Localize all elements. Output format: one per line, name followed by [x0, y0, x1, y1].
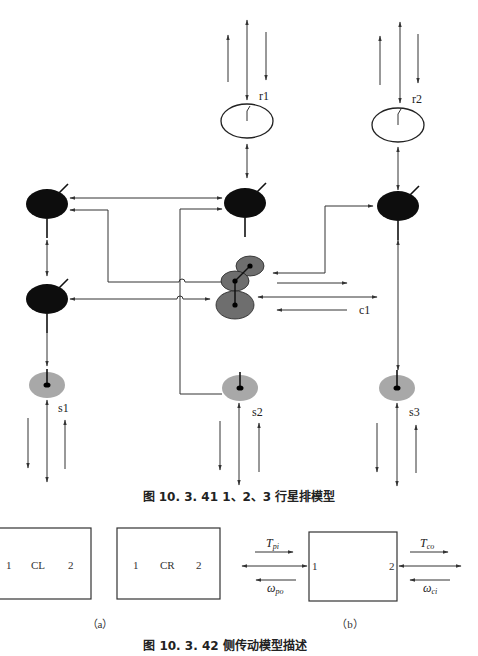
speed-in-label: ωci [423, 581, 437, 596]
box-cl-port-right: 2 [68, 559, 74, 571]
label-r2: r2 [412, 92, 422, 106]
sun-gear-s2-group: s2 [220, 372, 263, 485]
carrier-center-top [224, 183, 266, 237]
ring-gear-r2-group: r2 [372, 22, 424, 190]
figure-caption-1: 图 10. 3. 41 1、2、3 行星排模型 [143, 489, 336, 504]
connector-line [180, 209, 222, 394]
dark-gear [224, 188, 266, 218]
torque-out-label: Tco [420, 536, 434, 551]
planet-gear-set [216, 256, 264, 319]
dark-gear [26, 189, 68, 219]
carrier-left-middle [26, 279, 68, 333]
box-cr-port-left: 1 [133, 559, 139, 571]
speed-out-label: ωpo [267, 581, 283, 596]
port-right: 2 [389, 560, 395, 572]
panel-a-label: （a） [87, 618, 114, 630]
label-s1: s1 [58, 401, 69, 415]
box-cl-name: CL [31, 559, 45, 571]
diagram-canvas: r1 r2 [0, 0, 478, 656]
label-s3: s3 [409, 405, 420, 419]
connector-line [273, 206, 325, 273]
sun-gear-s1-group: s1 [28, 333, 69, 482]
panel-a: 1 CL 2 1 CR 2 （a） [0, 528, 220, 630]
panel-b: 1 2 Tpi ωpo Tco ωci （b） [242, 532, 461, 630]
panel-b-label: （b） [336, 618, 364, 630]
ring-gear-r1-group: r1 [221, 20, 273, 178]
carrier-left-top [26, 184, 68, 238]
sun-gear-s3-group: s3 [377, 370, 420, 486]
label-s2: s2 [252, 405, 263, 419]
box-cl [0, 528, 91, 599]
dark-gear [26, 284, 68, 314]
figure-caption-2: 图 10. 3. 42 侧传动模型描述 [143, 638, 307, 653]
connector-line [70, 210, 225, 282]
carrier-right [377, 186, 419, 240]
dark-gear [377, 191, 419, 221]
box-cr-port-right: 2 [196, 559, 202, 571]
label-c1: c1 [359, 303, 370, 317]
port-left: 1 [312, 560, 318, 572]
double-arrow-icon [70, 296, 210, 299]
label-r1: r1 [259, 89, 269, 103]
side-drive-box [309, 532, 397, 601]
box-cr-name: CR [160, 559, 175, 571]
box-cl-port-left: 1 [6, 559, 12, 571]
torque-in-label: Tpi [266, 536, 279, 551]
